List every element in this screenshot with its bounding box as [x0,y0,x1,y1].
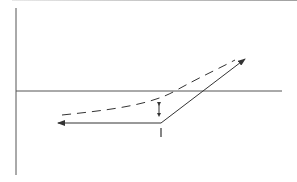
diagram-canvas [0,0,297,182]
dashed-curve [62,60,235,115]
